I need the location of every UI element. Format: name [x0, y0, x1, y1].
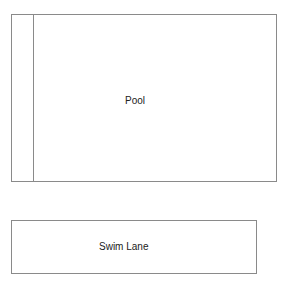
swim-lane-label: Swim Lane: [99, 241, 148, 252]
swim-lane-shape[interactable]: Swim Lane: [11, 220, 257, 274]
pool-header-divider: [33, 15, 34, 181]
pool-shape[interactable]: Pool: [11, 14, 277, 182]
pool-label: Pool: [125, 95, 145, 106]
